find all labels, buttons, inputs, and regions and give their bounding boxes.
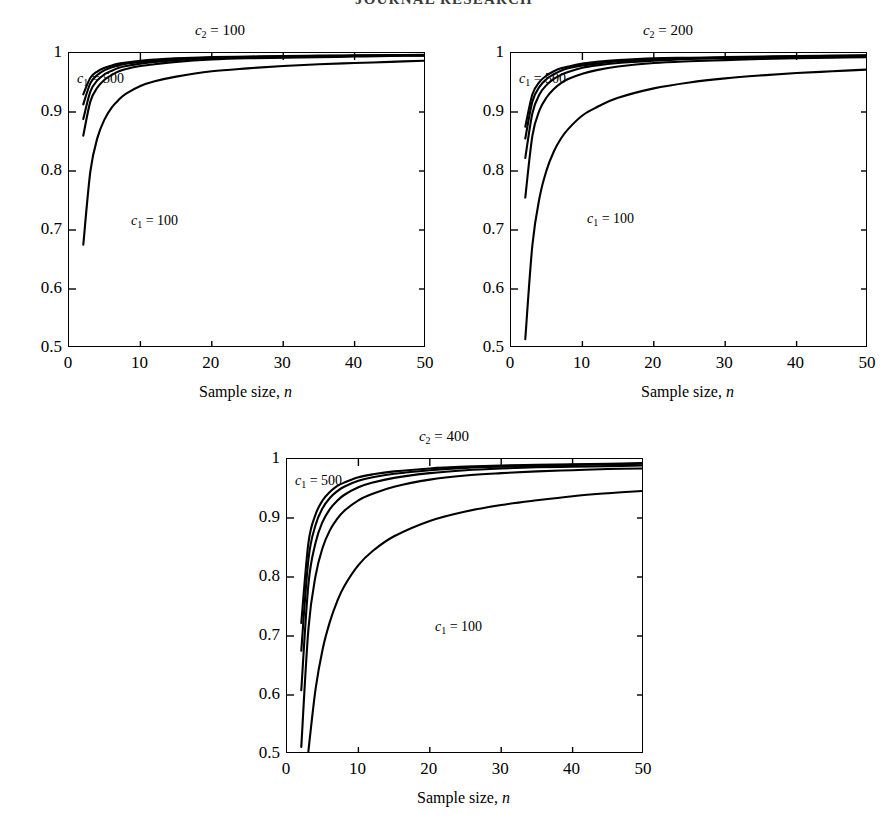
ytick-label: 0.9 bbox=[18, 101, 62, 121]
annotation-c1-100: c1 = 100 bbox=[131, 213, 178, 230]
ytick-label: 0.6 bbox=[236, 684, 280, 704]
annotation-c1-500: c1 c= 500 bbox=[77, 71, 124, 88]
x-axis-label-var: n bbox=[726, 383, 734, 400]
plot-area: c1 = 500 c1 = 100 bbox=[286, 458, 643, 753]
xtick-label: 20 bbox=[644, 353, 661, 373]
panel-title-value: = 100 bbox=[210, 22, 245, 38]
panel-title-var: c bbox=[643, 22, 650, 38]
panel-title-var: c bbox=[419, 428, 426, 444]
x-axis-label-text: Sample size, bbox=[199, 383, 280, 400]
ytick-label: 1 bbox=[236, 448, 280, 468]
ytick-label: 0.6 bbox=[460, 278, 504, 298]
ytick-label: 1 bbox=[460, 42, 504, 62]
curves-svg bbox=[511, 53, 867, 347]
xtick-label: 10 bbox=[131, 353, 148, 373]
ytick-label: 0.8 bbox=[460, 160, 504, 180]
ytick-label: 0.5 bbox=[460, 337, 504, 357]
annotation-c1-500: c1 = 500 bbox=[519, 71, 566, 88]
xtick-label: 50 bbox=[417, 353, 434, 373]
panel-title: c2 = 200 bbox=[448, 22, 888, 40]
panel-title-var: c bbox=[195, 22, 202, 38]
ytick-label: 0.7 bbox=[460, 219, 504, 239]
annotation-c1-100: c1 = 100 bbox=[587, 211, 634, 228]
panel-title-subscript: 2 bbox=[202, 29, 207, 40]
xtick-label: 10 bbox=[349, 759, 366, 779]
curve-c1-500 bbox=[301, 463, 643, 623]
panel-title-subscript: 2 bbox=[426, 435, 431, 446]
curve-c1-100 bbox=[525, 70, 867, 340]
ann-high-eq-1: = 500 bbox=[534, 71, 566, 86]
x-axis-label-var: n bbox=[284, 383, 292, 400]
ann-low-eq-1: = 100 bbox=[602, 211, 634, 226]
ytick-label: 0.8 bbox=[236, 566, 280, 586]
ann-high-eq-2: = 500 bbox=[310, 473, 342, 488]
x-axis-label: Sample size, n bbox=[251, 789, 676, 807]
xtick-label: 40 bbox=[787, 353, 804, 373]
panel-c2-400: c2 = 400 c1 = 500 c1 = 100 1 0.9 0.8 0.7… bbox=[224, 428, 664, 828]
panel-title: c2 = 400 bbox=[224, 428, 664, 446]
ytick-label: 0.6 bbox=[18, 278, 62, 298]
curve-c1-300 bbox=[83, 55, 425, 119]
xtick-label: 30 bbox=[492, 759, 509, 779]
x-axis-label-text: Sample size, bbox=[417, 789, 498, 806]
xtick-label: 40 bbox=[563, 759, 580, 779]
panel-title-value: = 400 bbox=[434, 428, 469, 444]
x-axis-label-text: Sample size, bbox=[641, 383, 722, 400]
plot-area: c1 = 500 c1 = 100 bbox=[510, 52, 867, 347]
ytick-label: 1 bbox=[18, 42, 62, 62]
xtick-label: 10 bbox=[573, 353, 590, 373]
xtick-label: 30 bbox=[716, 353, 733, 373]
plot-area: c1 c= 500 c1 = 100 bbox=[68, 52, 425, 347]
x-axis-label: Sample size, n bbox=[33, 383, 458, 401]
running-header: JOURNAL RESEARCH bbox=[0, 0, 888, 8]
curve-c1-300 bbox=[301, 465, 643, 690]
curve-c1-200 bbox=[525, 57, 867, 197]
xtick-label: 20 bbox=[202, 353, 219, 373]
panel-c2-200: c2 = 200 c1 = 500 c1 = 100 1 0.9 0.8 0.7… bbox=[448, 22, 888, 412]
ytick-label: 0.5 bbox=[236, 743, 280, 763]
xtick-label: 0 bbox=[506, 353, 515, 373]
xtick-label: 50 bbox=[859, 353, 876, 373]
x-axis-label: Sample size, n bbox=[475, 383, 888, 401]
ytick-label: 0.7 bbox=[236, 625, 280, 645]
panel-title: c2 = 100 bbox=[0, 22, 440, 40]
panel-title-value: = 200 bbox=[658, 22, 693, 38]
ytick-label: 0.9 bbox=[460, 101, 504, 121]
ytick-label: 0.7 bbox=[18, 219, 62, 239]
panel-title-subscript: 2 bbox=[650, 29, 655, 40]
curves-svg bbox=[69, 53, 425, 347]
annotation-c1-100: c1 = 100 bbox=[435, 619, 482, 636]
xtick-label: 0 bbox=[64, 353, 73, 373]
xtick-label: 30 bbox=[274, 353, 291, 373]
ann-high-eq-0: = 500 bbox=[92, 71, 124, 86]
xtick-label: 0 bbox=[282, 759, 291, 779]
panel-c2-100: c2 = 100 c1 c= 500 c1 = 100 1 0.9 0.8 0.… bbox=[0, 22, 440, 412]
xtick-label: 20 bbox=[420, 759, 437, 779]
ann-low-eq-0: = 100 bbox=[146, 213, 178, 228]
ann-low-eq-2: = 100 bbox=[450, 619, 482, 634]
x-axis-label-var: n bbox=[502, 789, 510, 806]
xtick-label: 40 bbox=[345, 353, 362, 373]
xtick-label: 50 bbox=[635, 759, 652, 779]
ytick-label: 0.9 bbox=[236, 507, 280, 527]
annotation-c1-500: c1 = 500 bbox=[295, 473, 342, 490]
ytick-label: 0.5 bbox=[18, 337, 62, 357]
curve-c1-400 bbox=[525, 56, 867, 139]
ytick-label: 0.8 bbox=[18, 160, 62, 180]
curves-svg bbox=[287, 459, 643, 753]
